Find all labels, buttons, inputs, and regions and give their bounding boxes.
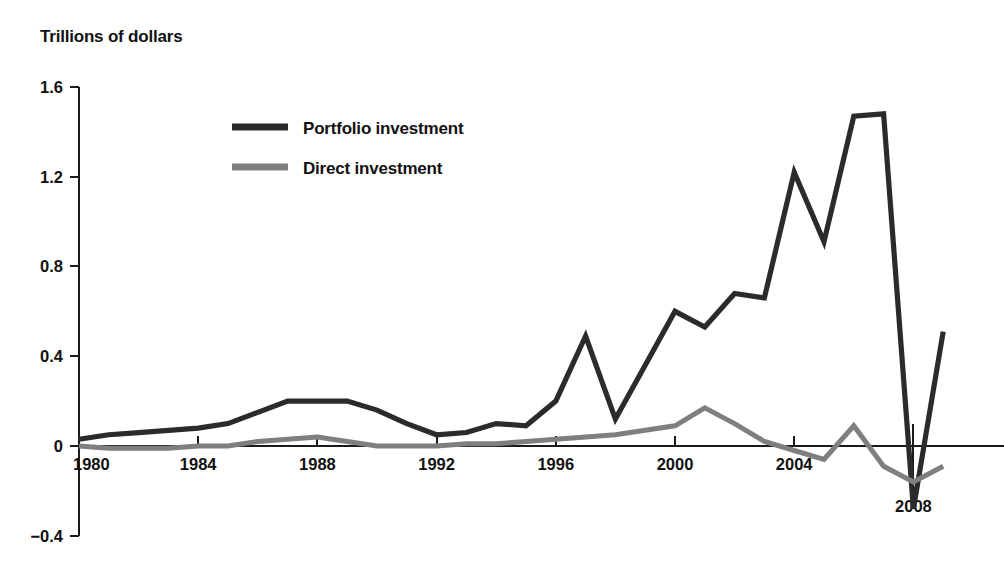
- y-tick-label: 0.8: [40, 257, 63, 275]
- legend-label-direct: Direct investment: [303, 159, 443, 178]
- series-lines: [79, 114, 943, 509]
- y-tick-label: 0.4: [40, 347, 64, 365]
- chart-figure: Trillions of dollars −0.400.40.81.21.6 1…: [0, 0, 1004, 575]
- x-tick-label: 1988: [299, 455, 336, 473]
- y-axis: −0.400.40.81.21.6: [30, 78, 79, 545]
- x-tick-label: 1984: [180, 455, 218, 473]
- y-tick-label: 1.6: [40, 78, 63, 96]
- series-line-portfolio: [79, 114, 943, 509]
- x-tick-label: 1992: [418, 455, 455, 473]
- y-tick-label: −0.4: [30, 527, 63, 545]
- legend-label-portfolio: Portfolio investment: [303, 119, 464, 138]
- x-tick-label: 1996: [537, 455, 574, 473]
- y-tick-label: 0: [54, 437, 63, 455]
- y-tick-label: 1.2: [40, 168, 63, 186]
- x-tick-label: 2004: [776, 455, 814, 473]
- chart-legend: Portfolio investmentDirect investment: [232, 119, 464, 178]
- x-tick-label: 2000: [657, 455, 694, 473]
- line-chart: −0.400.40.81.21.6 1980198419881992199620…: [0, 0, 1004, 575]
- x-tick-label: 1980: [73, 455, 110, 473]
